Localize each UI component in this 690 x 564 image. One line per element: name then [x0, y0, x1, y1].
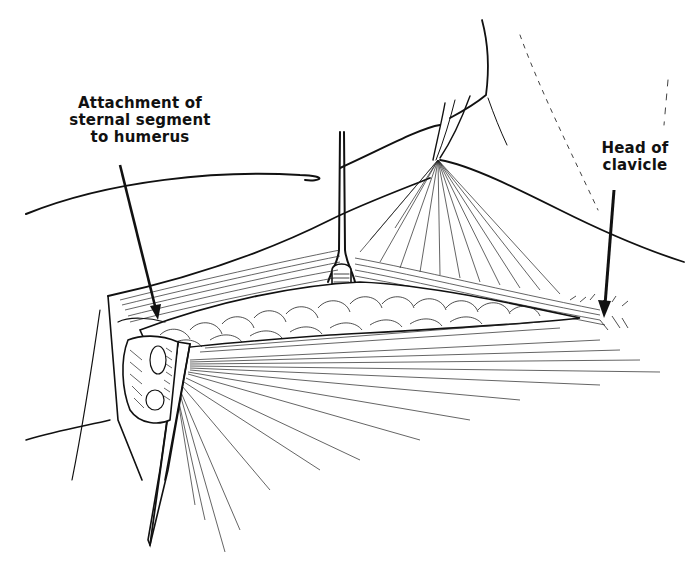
label-line: clavicle [580, 157, 690, 174]
clavicle-head-region [570, 294, 628, 330]
anatomy-illustration: Attachment of sternal segment to humerus… [0, 0, 690, 564]
label-head-of-clavicle: Head of clavicle [580, 140, 690, 174]
illustration-drawing [0, 0, 690, 564]
clavicular-muscle-fan [360, 160, 560, 294]
label-line: sternal segment [52, 112, 228, 129]
forked-retractor [328, 132, 355, 284]
label-line: to humerus [52, 129, 228, 146]
label-line: Head of [580, 140, 690, 157]
label-line: Attachment of [52, 95, 228, 112]
clavicle-pointer [598, 190, 614, 318]
hook-retractor [433, 96, 470, 160]
pectoral-fibers-lower [178, 322, 660, 552]
label-attachment-sternal-segment: Attachment of sternal segment to humerus [52, 95, 228, 146]
